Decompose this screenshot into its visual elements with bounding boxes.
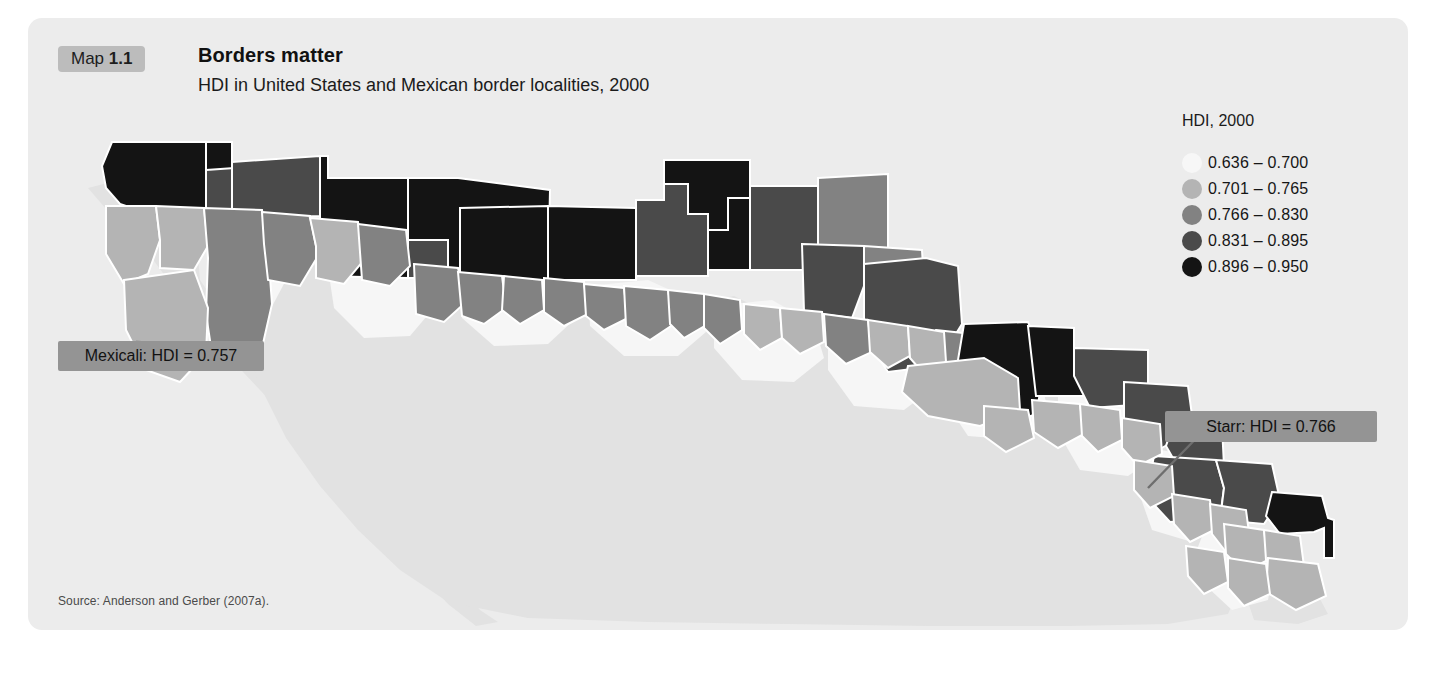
map-number-badge: Map 1.1 bbox=[58, 46, 145, 72]
county-hidalgo bbox=[460, 206, 548, 280]
callout-starr: Starr: HDI = 0.766 bbox=[1165, 411, 1377, 442]
legend-item-0: 0.636 – 0.700 bbox=[1182, 150, 1402, 176]
municipio-tecate bbox=[156, 206, 208, 270]
map-legend: HDI, 2000 0.636 – 0.700 0.701 – 0.765 0.… bbox=[1182, 112, 1402, 280]
legend-swatch-icon bbox=[1182, 205, 1202, 225]
legend-item-label: 0.766 – 0.830 bbox=[1208, 206, 1308, 224]
legend-item-label: 0.701 – 0.765 bbox=[1208, 180, 1308, 198]
legend-item-2: 0.766 – 0.830 bbox=[1182, 202, 1402, 228]
badge-prefix: Map bbox=[71, 49, 104, 68]
county-jeff-davis bbox=[802, 244, 864, 318]
legend-swatch-icon bbox=[1182, 179, 1202, 199]
legend-swatch-icon bbox=[1182, 231, 1202, 251]
legend-swatch-icon bbox=[1182, 153, 1202, 173]
page-subtitle: HDI in United States and Mexican border … bbox=[198, 75, 649, 96]
legend-item-label: 0.831 – 0.895 bbox=[1208, 232, 1308, 250]
legend-item-label: 0.636 – 0.700 bbox=[1208, 154, 1308, 172]
badge-number: 1.1 bbox=[109, 49, 133, 68]
figure-header: Map 1.1 Borders matter HDI in United Sta… bbox=[58, 44, 1058, 124]
legend-title: HDI, 2000 bbox=[1182, 112, 1402, 130]
map-figure: Map 1.1 Borders matter HDI in United Sta… bbox=[0, 0, 1438, 674]
legend-item-4: 0.896 – 0.950 bbox=[1182, 254, 1402, 280]
legend-item-1: 0.701 – 0.765 bbox=[1182, 176, 1402, 202]
county-luna bbox=[548, 206, 636, 280]
legend-item-label: 0.896 – 0.950 bbox=[1208, 258, 1308, 276]
page-title: Borders matter bbox=[198, 44, 343, 67]
legend-item-3: 0.831 – 0.895 bbox=[1182, 228, 1402, 254]
municipio-tijuana bbox=[106, 206, 160, 284]
source-note: Source: Anderson and Gerber (2007a). bbox=[58, 594, 269, 608]
callout-mexicali: Mexicali: HDI = 0.757 bbox=[58, 341, 264, 371]
legend-swatch-icon bbox=[1182, 257, 1202, 277]
